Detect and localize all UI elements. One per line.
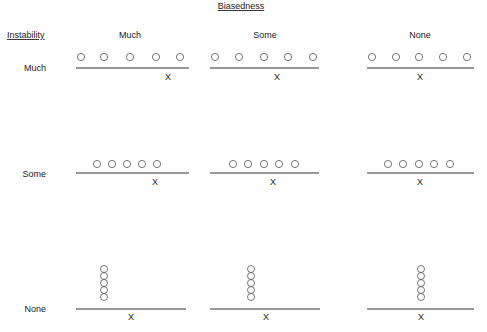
shot-circle-icon (392, 53, 399, 60)
row-label-much: Much (24, 63, 46, 73)
shot-circle-icon (248, 266, 255, 273)
cells-group: XXXXXXXXX (76, 53, 474, 322)
shot-circle-icon (260, 53, 267, 60)
row-axis-title: Instability (7, 30, 45, 40)
cell-none-much: X (76, 266, 186, 323)
column-header-some: Some (253, 30, 277, 40)
target-x-marker: X (270, 177, 276, 187)
shot-circle-icon (439, 53, 446, 60)
shot-circle-icon (101, 266, 108, 273)
row-label-some: Some (22, 169, 46, 179)
shot-circle-icon (152, 53, 159, 60)
shot-circle-icon (211, 53, 218, 60)
shot-circle-icon (418, 266, 425, 273)
target-x-marker: X (128, 312, 134, 322)
cell-much-none: X (367, 53, 474, 82)
shot-circle-icon (415, 160, 422, 167)
shot-circle-icon (93, 160, 100, 167)
target-x-marker: X (417, 72, 423, 82)
shot-circle-icon (176, 53, 183, 60)
shot-circle-icon (248, 280, 255, 287)
shot-circle-icon (126, 53, 133, 60)
shot-circle-icon (418, 280, 425, 287)
target-x-marker: X (274, 72, 280, 82)
cell-some-some: X (210, 160, 319, 187)
shot-circle-icon (384, 160, 391, 167)
shot-circle-icon (244, 160, 251, 167)
target-x-marker: X (418, 312, 424, 322)
shot-circle-icon (248, 273, 255, 280)
shot-circle-icon (284, 53, 291, 60)
shot-circle-icon (291, 160, 298, 167)
shot-circle-icon (418, 287, 425, 294)
shot-circle-icon (229, 160, 236, 167)
shot-circle-icon (446, 160, 453, 167)
shot-circle-icon (77, 53, 84, 60)
shot-circle-icon (368, 53, 375, 60)
shot-circle-icon (399, 160, 406, 167)
target-x-marker: X (165, 72, 171, 82)
shot-circle-icon (101, 287, 108, 294)
shot-circle-icon (101, 294, 108, 301)
cell-some-much: X (76, 160, 189, 187)
diagram-canvas: Biasedness Instability Much Some None Mu… (0, 0, 487, 332)
shot-circle-icon (100, 53, 107, 60)
shot-circle-icon (415, 53, 422, 60)
shot-circle-icon (418, 294, 425, 301)
shot-circle-icon (248, 294, 255, 301)
shot-circle-icon (275, 160, 282, 167)
target-x-marker: X (417, 177, 423, 187)
shot-circle-icon (309, 53, 316, 60)
shot-circle-icon (248, 287, 255, 294)
column-header-none: None (409, 30, 431, 40)
column-header-much: Much (119, 30, 141, 40)
cell-much-much: X (76, 53, 189, 82)
cell-much-some: X (210, 53, 319, 82)
diagram-title: Biasedness (218, 1, 265, 11)
cell-some-none: X (367, 160, 474, 187)
target-x-marker: X (263, 312, 269, 322)
cell-none-none: X (367, 266, 474, 323)
row-label-none: None (24, 304, 46, 314)
shot-circle-icon (430, 160, 437, 167)
target-x-marker: X (152, 177, 158, 187)
shot-circle-icon (108, 160, 115, 167)
cell-none-some: X (210, 266, 320, 323)
shot-circle-icon (123, 160, 130, 167)
shot-circle-icon (101, 280, 108, 287)
shot-circle-icon (260, 160, 267, 167)
shot-circle-icon (101, 273, 108, 280)
shot-circle-icon (138, 160, 145, 167)
shot-circle-icon (235, 53, 242, 60)
shot-circle-icon (463, 53, 470, 60)
bias-instability-diagram: Biasedness Instability Much Some None Mu… (0, 0, 487, 332)
shot-circle-icon (153, 160, 160, 167)
shot-circle-icon (418, 273, 425, 280)
